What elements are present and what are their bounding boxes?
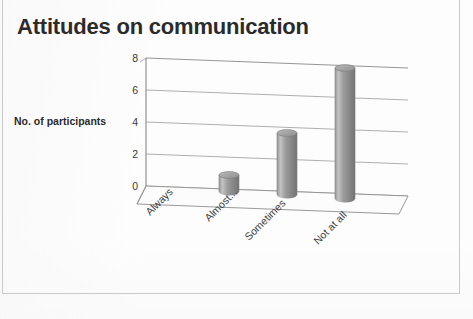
y-tick-0: 0: [132, 180, 138, 192]
chart-plot-area: 8 6 4 2 0 Always Almost... Sometimes Not…: [0, 0, 473, 319]
y-tick-8: 8: [132, 52, 138, 64]
axis-frame: [140, 58, 146, 186]
bar-sometimes[interactable]: [277, 130, 297, 199]
y-tick-4: 4: [132, 116, 138, 128]
bar-not-at-all[interactable]: [335, 65, 355, 203]
category-label-not-at-all: Not at all: [311, 209, 349, 247]
y-tick-6: 6: [132, 84, 138, 96]
y-tick-2: 2: [132, 148, 138, 160]
presentation-slide: Attitudes on communication No. of partic…: [0, 0, 473, 319]
